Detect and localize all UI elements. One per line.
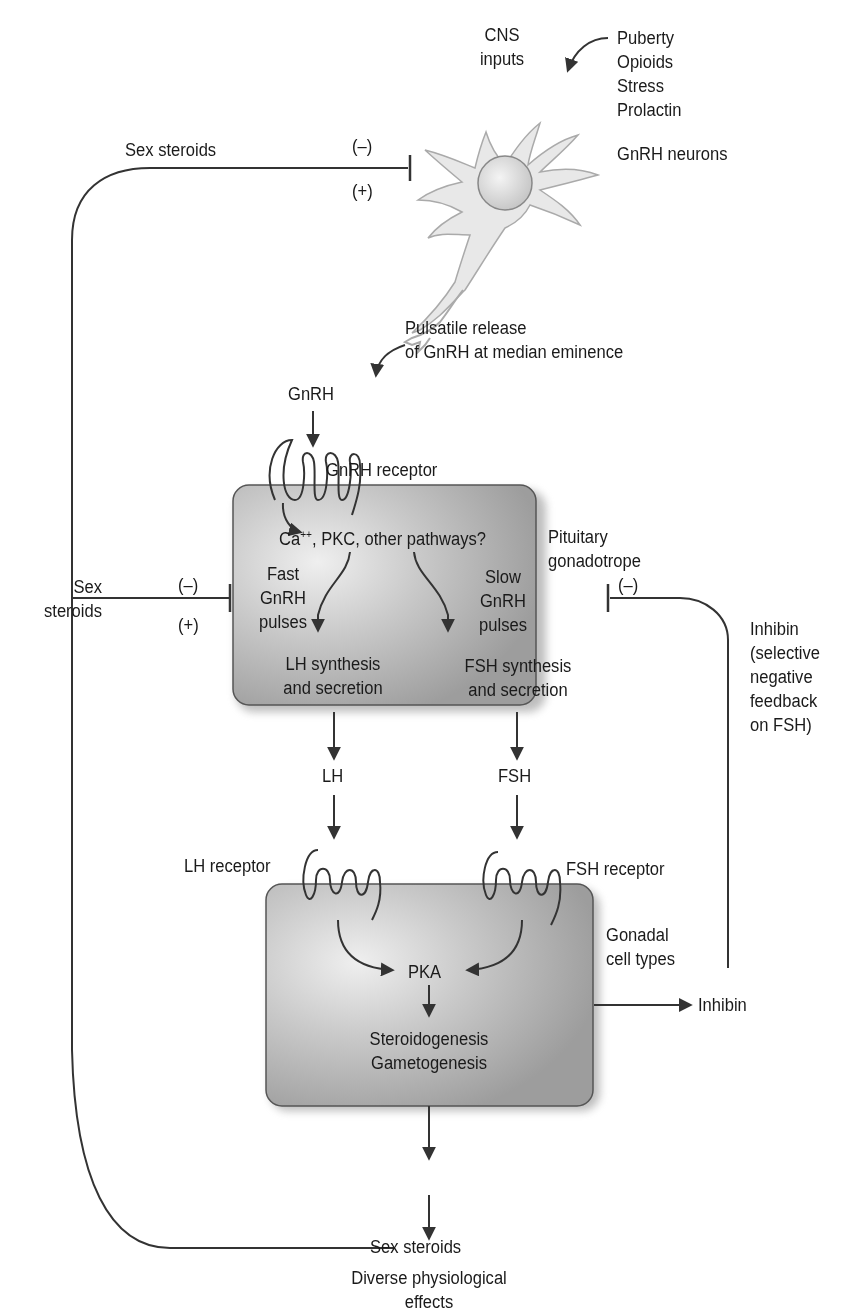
neuron-nucleus [478,156,532,210]
pituitary-label-line: Pituitary [548,525,641,549]
pathways-suffix: , PKC, other pathways? [312,529,486,549]
pituitary-label-line: gonadotrope [548,549,641,573]
slow-line: pulses [471,613,535,637]
fast-line: GnRH [251,586,315,610]
inhibin-feedback-line: Inhibin [750,617,820,641]
slow-line: GnRH [471,589,535,613]
fsh-synthesis-label: FSH synthesis and secretion [454,654,583,702]
fast-pulses-label: Fast GnRH pulses [251,562,315,634]
lh-receptor-label: LH receptor [184,855,271,877]
input-factor: Stress [617,74,681,98]
neuron-body [412,123,598,333]
fsh-receptor-label: FSH receptor [566,858,664,880]
pathways-prefix: Ca [279,529,300,549]
inputs-arrow [568,38,608,70]
inhibin-feedback-label: Inhibin (selective negative feedback on … [750,617,820,737]
mid-label-line: steroids [44,599,102,623]
input-factor: Puberty [617,26,681,50]
signaling-pathways-label: Ca++, PKC, other pathways? [279,523,486,550]
lh-label: LH [322,765,343,787]
pituitary-minus-sign: (–) [178,574,198,596]
fast-line: pulses [251,610,315,634]
sex-steroids-top-label: Sex steroids [125,139,216,161]
cns-inputs-label: CNS inputs [474,23,529,71]
inhibin-feedback-line: on FSH) [750,713,820,737]
gonad-label-line: cell types [606,947,675,971]
pathways-superscript: ++ [300,528,312,540]
gnrh-neurons-label: GnRH neurons [617,143,727,165]
effects-line: Diverse physiological [328,1266,530,1290]
pka-label: PKA [408,961,441,983]
inhibin-feedback-line: negative [750,665,820,689]
release-line: Pulsatile release [405,316,623,340]
release-arrow [376,345,405,375]
effects-line: effects [328,1290,530,1312]
lh-synth-line: and secretion [273,676,393,700]
neuron-minus-sign: (–) [352,135,372,157]
gnrh-receptor-label: GnRH receptor [326,459,437,481]
cns-inputs-line: CNS [474,23,529,47]
input-factor: Opioids [617,50,681,74]
sex-steroids-mid-label: Sex steroids [44,575,102,623]
inhibin-feedback-line: feedback [750,689,820,713]
gonadal-cell-types-label: Gonadal cell types [606,923,675,971]
mid-label-line: Sex [44,575,102,599]
slow-pulses-label: Slow GnRH pulses [471,565,535,637]
neuron-plus-sign: (+) [352,180,373,202]
fast-line: Fast [251,562,315,586]
lh-synthesis-label: LH synthesis and secretion [273,652,393,700]
fsh-synth-line: and secretion [454,678,583,702]
slow-line: Slow [471,565,535,589]
pituitary-gonadotrope-label: Pituitary gonadotrope [548,525,641,573]
gonad-outputs-label: Steroidogenesis Gametogenesis [355,1027,502,1075]
inhibin-minus-sign: (–) [618,574,638,596]
gonad-output-line: Steroidogenesis [355,1027,502,1051]
inhibin-feedback-line: (selective [750,641,820,665]
gnrh-label: GnRH [288,383,334,405]
inhibin-output-label: Inhibin [698,994,747,1016]
gonad-output-line: Gametogenesis [355,1051,502,1075]
gonad-label-line: Gonadal [606,923,675,947]
cns-input-factors: Puberty Opioids Stress Prolactin [617,26,681,122]
cns-inputs-line: inputs [474,47,529,71]
lh-synth-line: LH synthesis [273,652,393,676]
pituitary-plus-sign: (+) [178,614,199,636]
input-factor: Prolactin [617,98,681,122]
fsh-synth-line: FSH synthesis [454,654,583,678]
fsh-label: FSH [498,765,531,787]
release-line: of GnRH at median eminence [405,340,623,364]
inhibin-feedback-line [610,598,728,968]
pulsatile-release-label: Pulsatile release of GnRH at median emin… [405,316,623,364]
physiological-effects-label: Diverse physiological effects [328,1242,530,1312]
